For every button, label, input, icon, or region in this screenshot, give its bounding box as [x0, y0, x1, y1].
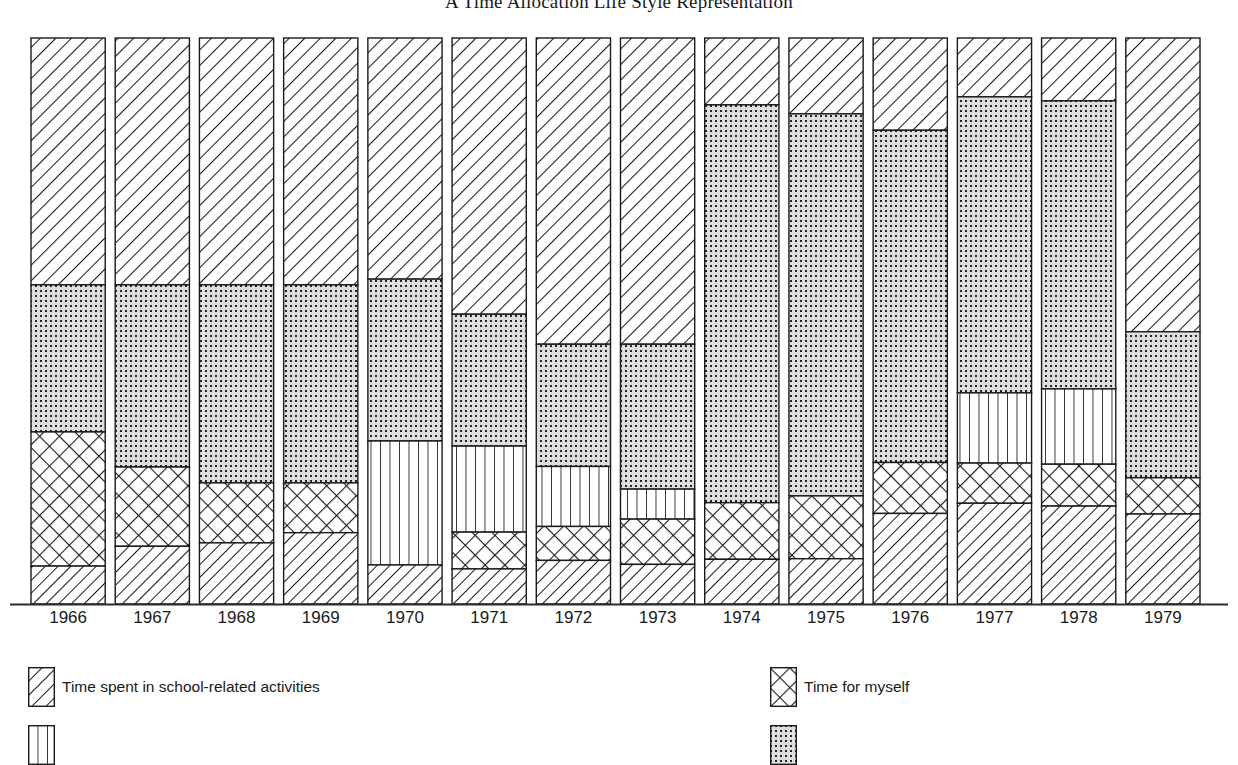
bar-segment[interactable]	[452, 314, 526, 446]
bar-column[interactable]	[1042, 38, 1116, 604]
bars-layer	[31, 38, 1200, 604]
bar-segment[interactable]	[1126, 478, 1200, 514]
bar-segment[interactable]	[789, 38, 863, 114]
dotted-swatch-icon	[770, 725, 797, 765]
bar-column[interactable]	[452, 38, 526, 604]
bar-column[interactable]	[873, 38, 947, 604]
bar-segment[interactable]	[1042, 389, 1116, 464]
legend-item[interactable]: Time for myself	[770, 667, 909, 707]
bar-segment[interactable]	[31, 432, 105, 566]
x-tick-label: 1968	[199, 608, 273, 628]
bar-segment[interactable]	[705, 503, 779, 560]
bar-segment[interactable]	[957, 38, 1031, 97]
bar-segment[interactable]	[1042, 506, 1116, 604]
diagonal-hatch-swatch-icon	[28, 667, 55, 707]
bar-segment[interactable]	[452, 38, 526, 314]
x-tick-label: 1969	[284, 608, 358, 628]
bar-segment[interactable]	[368, 441, 442, 565]
x-tick-label: 1970	[368, 608, 442, 628]
x-tick-label: 1975	[789, 608, 863, 628]
legend-item-label: Time for myself	[804, 679, 909, 695]
bar-column[interactable]	[705, 38, 779, 604]
cross-hatch-swatch-icon	[770, 667, 797, 707]
bar-segment[interactable]	[199, 38, 273, 285]
legend-item[interactable]	[28, 725, 62, 765]
bar-segment[interactable]	[1126, 332, 1200, 478]
x-tick-label: 1978	[1042, 608, 1116, 628]
bar-segment[interactable]	[789, 496, 863, 559]
bar-segment[interactable]	[536, 38, 610, 344]
bar-segment[interactable]	[873, 463, 947, 514]
bar-segment[interactable]	[1042, 464, 1116, 506]
bar-segment[interactable]	[31, 285, 105, 432]
x-tick-label: 1977	[957, 608, 1031, 628]
bar-segment[interactable]	[368, 38, 442, 279]
bar-segment[interactable]	[536, 560, 610, 604]
bar-segment[interactable]	[536, 526, 610, 560]
bar-segment[interactable]	[705, 559, 779, 604]
bar-segment[interactable]	[284, 38, 358, 285]
bar-column[interactable]	[789, 38, 863, 604]
bar-column[interactable]	[31, 38, 105, 604]
vertical-lines-swatch-icon	[28, 725, 55, 765]
bar-segment[interactable]	[452, 446, 526, 532]
bar-segment[interactable]	[284, 533, 358, 604]
bar-segment[interactable]	[284, 285, 358, 483]
bar-segment[interactable]	[789, 114, 863, 496]
bar-segment[interactable]	[536, 466, 610, 526]
bar-segment[interactable]	[873, 38, 947, 130]
x-tick-label: 1973	[621, 608, 695, 628]
bar-segment[interactable]	[199, 483, 273, 543]
bar-segment[interactable]	[199, 285, 273, 483]
bar-segment[interactable]	[115, 467, 189, 546]
bar-segment[interactable]	[31, 566, 105, 604]
bar-segment[interactable]	[957, 463, 1031, 503]
bar-segment[interactable]	[621, 38, 695, 344]
bar-segment[interactable]	[789, 559, 863, 604]
legend-item[interactable]: Time spent in school-related activities	[28, 667, 320, 707]
bar-column[interactable]	[1126, 38, 1200, 604]
bar-segment[interactable]	[705, 105, 779, 503]
bar-segment[interactable]	[1126, 38, 1200, 332]
bar-segment[interactable]	[1042, 38, 1116, 101]
legend-item-label: Time spent in school-related activities	[62, 679, 320, 695]
bar-segment[interactable]	[957, 393, 1031, 463]
bar-segment[interactable]	[957, 503, 1031, 604]
bar-segment[interactable]	[284, 483, 358, 533]
bar-segment[interactable]	[452, 532, 526, 569]
x-tick-label: 1971	[452, 608, 526, 628]
bar-segment[interactable]	[368, 565, 442, 604]
bar-column[interactable]	[368, 38, 442, 604]
bar-segment[interactable]	[621, 519, 695, 564]
x-axis-labels: 1966196719681969197019711972197319741975…	[0, 608, 1238, 640]
bar-column[interactable]	[957, 38, 1031, 604]
bar-segment[interactable]	[1042, 101, 1116, 389]
bar-segment[interactable]	[115, 38, 189, 285]
bar-segment[interactable]	[368, 279, 442, 441]
bar-column[interactable]	[115, 38, 189, 604]
bar-segment[interactable]	[873, 130, 947, 462]
bar-segment[interactable]	[31, 38, 105, 285]
x-tick-label: 1976	[873, 608, 947, 628]
bar-segment[interactable]	[957, 97, 1031, 393]
bar-column[interactable]	[199, 38, 273, 604]
x-tick-label: 1974	[705, 608, 779, 628]
bar-segment[interactable]	[621, 344, 695, 489]
bar-column[interactable]	[284, 38, 358, 604]
bar-column[interactable]	[536, 38, 610, 604]
bar-segment[interactable]	[873, 513, 947, 604]
bar-column[interactable]	[621, 38, 695, 604]
legend-item[interactable]	[770, 725, 804, 765]
bar-segment[interactable]	[115, 546, 189, 604]
x-tick-label: 1972	[536, 608, 610, 628]
bar-segment[interactable]	[536, 344, 610, 466]
bar-segment[interactable]	[621, 489, 695, 519]
plot-area	[0, 0, 1238, 612]
bar-segment[interactable]	[1126, 514, 1200, 604]
bar-segment[interactable]	[115, 285, 189, 467]
bar-segment[interactable]	[621, 564, 695, 604]
bar-segment[interactable]	[199, 543, 273, 604]
bar-segment[interactable]	[452, 569, 526, 604]
bar-segment[interactable]	[705, 38, 779, 105]
